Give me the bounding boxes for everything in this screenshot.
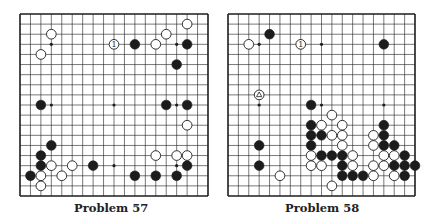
stone-disc xyxy=(88,161,98,171)
stone-disc xyxy=(317,161,327,171)
stone-disc xyxy=(182,161,192,171)
stone-disc xyxy=(182,151,192,161)
stone-disc xyxy=(379,39,389,49)
white-stone xyxy=(327,181,337,191)
white-stone xyxy=(254,90,264,100)
stone-disc xyxy=(317,130,327,140)
black-stone xyxy=(379,120,389,130)
white-stone xyxy=(327,110,337,120)
black-stone xyxy=(306,100,316,110)
stone-disc xyxy=(379,130,389,140)
stone-disc xyxy=(317,120,327,130)
stone-disc xyxy=(161,100,171,110)
white-stone xyxy=(369,161,379,171)
white-stone xyxy=(182,151,192,161)
stone-disc xyxy=(400,171,410,181)
stone-disc xyxy=(410,161,420,171)
stone-disc xyxy=(389,171,399,181)
black-stone xyxy=(337,171,347,181)
stone-disc xyxy=(379,151,389,161)
stone-disc xyxy=(389,151,399,161)
black-stone xyxy=(161,100,171,110)
stone-disc xyxy=(337,151,347,161)
star-point xyxy=(175,164,178,167)
stone-disc xyxy=(275,171,285,181)
white-stone xyxy=(161,29,171,39)
stone-disc xyxy=(151,171,161,181)
stone-disc xyxy=(265,29,275,39)
stone-disc xyxy=(369,130,379,140)
black-stone xyxy=(130,39,140,49)
white-stone xyxy=(369,141,379,151)
black-stone xyxy=(36,151,46,161)
star-point xyxy=(175,43,178,46)
white-stone xyxy=(275,171,285,181)
black-stone xyxy=(182,100,192,110)
stone-disc xyxy=(306,120,316,130)
stone-disc xyxy=(182,19,192,29)
stone-disc xyxy=(46,141,56,151)
white-stone xyxy=(348,151,358,161)
white-stone xyxy=(151,151,161,161)
star-point xyxy=(112,164,115,167)
stone-disc xyxy=(379,120,389,130)
black-stone xyxy=(88,161,98,171)
white-stone xyxy=(67,161,77,171)
stone-disc xyxy=(306,100,316,110)
stone-disc xyxy=(379,161,389,171)
stone-disc xyxy=(337,171,347,181)
stone-disc xyxy=(400,151,410,161)
white-stone xyxy=(348,161,358,171)
white-stone xyxy=(306,161,316,171)
white-stone xyxy=(379,151,389,161)
white-stone xyxy=(389,171,399,181)
black-stone xyxy=(306,120,316,130)
white-stone xyxy=(244,39,254,49)
black-stone xyxy=(306,130,316,140)
stone-disc xyxy=(182,39,192,49)
black-stone xyxy=(348,171,358,181)
black-stone xyxy=(379,39,389,49)
black-stone xyxy=(400,171,410,181)
star-point xyxy=(50,103,53,106)
black-stone xyxy=(172,171,182,181)
white-stone xyxy=(36,181,46,191)
white-stone xyxy=(151,39,161,49)
white-stone xyxy=(317,120,327,130)
stone-disc xyxy=(306,151,316,161)
stone-disc xyxy=(161,29,171,39)
stone-disc xyxy=(130,171,140,181)
black-stone xyxy=(389,161,399,171)
problem-58-caption: Problem 58 xyxy=(285,201,359,215)
white-stone xyxy=(172,151,182,161)
stone-disc xyxy=(379,141,389,151)
stone-disc xyxy=(327,151,337,161)
stone-disc xyxy=(337,161,347,171)
stone-disc xyxy=(57,171,67,181)
black-stone xyxy=(254,161,264,171)
white-stone xyxy=(46,161,56,171)
go-board-problem-57: 1 xyxy=(20,14,208,196)
black-stone xyxy=(358,171,368,181)
stone-disc xyxy=(26,171,36,181)
problem-57-caption: Problem 57 xyxy=(74,201,148,215)
black-stone xyxy=(410,161,420,171)
black-stone xyxy=(254,141,264,151)
white-stone: 1 xyxy=(296,39,306,49)
move-number-label: 1 xyxy=(298,40,303,49)
stone-disc xyxy=(369,161,379,171)
stone-disc xyxy=(389,141,399,151)
stone-disc xyxy=(172,60,182,70)
black-stone xyxy=(317,151,327,161)
stone-disc xyxy=(254,161,264,171)
black-stone xyxy=(306,141,316,151)
stone-disc xyxy=(244,39,254,49)
white-stone xyxy=(306,151,316,161)
star-point xyxy=(258,43,261,46)
stone-disc xyxy=(337,141,347,151)
go-board-svg: 1 xyxy=(20,14,208,196)
stone-disc xyxy=(317,151,327,161)
stone-disc xyxy=(36,171,46,181)
stone-disc xyxy=(306,130,316,140)
stone-disc xyxy=(369,171,379,181)
